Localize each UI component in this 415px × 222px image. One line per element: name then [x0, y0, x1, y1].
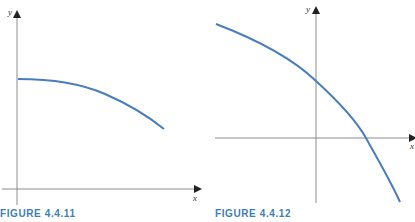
figure-4-4-12: y x	[215, 4, 414, 203]
figure-caption-4-4-11: FIGURE 4.4.11	[0, 208, 76, 219]
figures-canvas: y x y x	[0, 0, 415, 222]
curve	[216, 24, 400, 202]
x-axis-label: x	[409, 141, 414, 151]
y-axis-label: y	[305, 4, 310, 14]
x-axis-label: x	[192, 193, 197, 203]
y-axis-label: y	[7, 7, 12, 17]
figure-caption-4-4-12: FIGURE 4.4.12	[215, 208, 291, 219]
curve	[18, 79, 164, 129]
figure-4-4-11: y x	[2, 7, 198, 205]
